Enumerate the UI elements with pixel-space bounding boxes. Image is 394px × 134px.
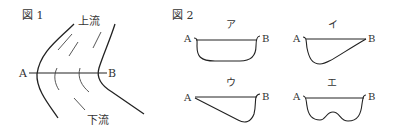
- downstream-label: 下流: [87, 113, 109, 127]
- point-b-label: B: [368, 33, 375, 44]
- panel-label: ウ: [226, 77, 236, 88]
- figure-2: 図 2 ア A B イ A B ウ A B エ A B: [172, 9, 375, 122]
- point-b-label: B: [368, 91, 375, 102]
- riverbed-profile: [303, 95, 366, 121]
- figure-2-title: 図 2: [172, 9, 194, 22]
- riverbed-profile: [195, 94, 260, 122]
- point-b-label: B: [108, 67, 116, 80]
- panel-label: エ: [327, 77, 337, 88]
- point-a-label: A: [183, 33, 192, 44]
- diagram-canvas: 図 1 上流 下流 A B 図 2 ア A B イ A: [0, 0, 394, 134]
- panel-label: イ: [328, 19, 338, 30]
- point-a-label: A: [292, 91, 301, 102]
- panel-e: エ A B: [292, 77, 375, 121]
- point-a-label: A: [292, 33, 301, 44]
- figure-1: 図 1 上流 下流 A B: [18, 9, 144, 127]
- point-a-label: A: [183, 92, 192, 103]
- point-b-label: B: [262, 91, 269, 102]
- figure-1-title: 図 1: [22, 9, 44, 22]
- panel-i: イ A B: [292, 19, 375, 64]
- panel-u: ウ A B: [183, 77, 269, 122]
- upstream-label: 上流: [78, 14, 100, 28]
- point-a-label: A: [18, 67, 28, 80]
- flow-lines: [55, 32, 101, 110]
- right-bank: [98, 24, 144, 114]
- point-b-label: B: [262, 33, 269, 44]
- panel-a: ア A B: [183, 19, 269, 61]
- panel-label: ア: [226, 19, 236, 30]
- riverbed-profile: [303, 37, 366, 64]
